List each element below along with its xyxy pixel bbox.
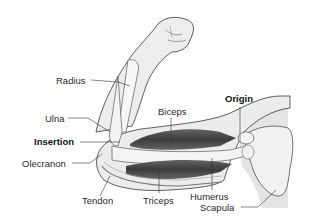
humeral-head [238, 132, 254, 144]
label-triceps: Triceps [143, 196, 174, 206]
label-insertion: Insertion [34, 137, 74, 147]
label-scapula: Scapula [200, 203, 234, 213]
label-ulna: Ulna [45, 114, 65, 124]
label-tendon: Tendon [82, 196, 113, 206]
label-radius: Radius [56, 76, 86, 86]
label-biceps: Biceps [158, 107, 187, 117]
label-humerus: Humerus [190, 192, 229, 202]
label-olecranon: Olecranon [22, 159, 66, 169]
arm-anatomy-diagram: Radius Ulna Insertion Olecranon Tendon T… [0, 0, 318, 223]
label-origin: Origin [225, 94, 253, 104]
